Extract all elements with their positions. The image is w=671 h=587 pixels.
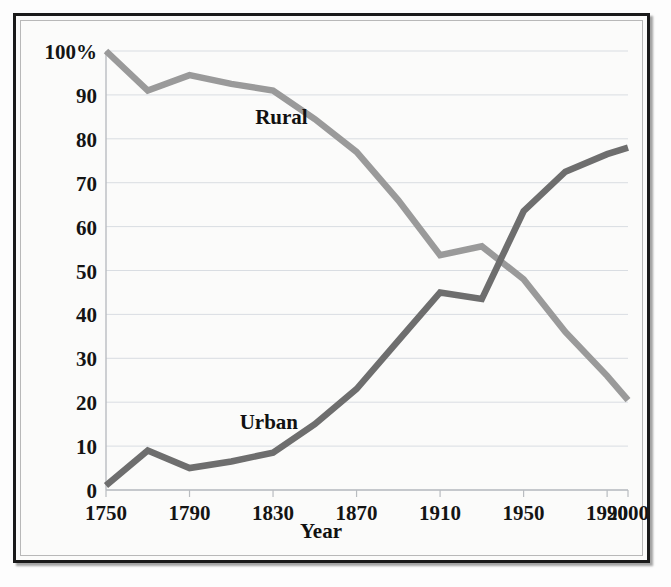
x-axis-tick-label: 1830 bbox=[252, 501, 294, 525]
y-axis-tick-label: 20 bbox=[76, 391, 97, 415]
x-axis-tick-label: 2000 bbox=[607, 501, 647, 525]
y-axis-tick-label: 60 bbox=[76, 216, 97, 240]
x-axis-tick-label: 1790 bbox=[169, 501, 211, 525]
data-line-rural bbox=[106, 51, 628, 400]
x-axis-tick-label: 1910 bbox=[419, 501, 461, 525]
series-label-rural: Rural bbox=[255, 105, 308, 129]
series-label-urban: Urban bbox=[240, 410, 299, 434]
line-chart: 0102030405060708090100% 1750179018301870… bbox=[16, 16, 647, 560]
y-axis-tick-label: 90 bbox=[76, 84, 97, 108]
series-annotations: RuralUrban bbox=[240, 105, 308, 434]
y-axis-tick-label: 30 bbox=[76, 347, 97, 371]
chart-frame: 0102030405060708090100% 1750179018301870… bbox=[13, 13, 650, 563]
data-series bbox=[106, 51, 628, 486]
x-axis-tick-label: 1750 bbox=[85, 501, 127, 525]
gridlines bbox=[106, 51, 628, 490]
y-axis-tick-label: 40 bbox=[76, 303, 97, 327]
x-axis-tick-labels: 17501790183018701910195019902000 bbox=[85, 501, 647, 525]
figure-root: 0102030405060708090100% 1750179018301870… bbox=[0, 0, 671, 587]
y-axis-tick-labels: 0102030405060708090100% bbox=[45, 40, 98, 503]
y-axis-tick-label: 0 bbox=[87, 479, 98, 503]
y-axis-tick-label: 80 bbox=[76, 128, 97, 152]
y-axis-tick-label: 10 bbox=[76, 435, 97, 459]
x-axis-tick-label: 1950 bbox=[503, 501, 545, 525]
y-axis-tick-label: 100% bbox=[45, 40, 98, 64]
x-axis-title: Year bbox=[300, 519, 342, 543]
axes bbox=[106, 51, 628, 497]
y-axis-tick-label: 70 bbox=[76, 172, 97, 196]
y-axis-tick-label: 50 bbox=[76, 260, 97, 284]
